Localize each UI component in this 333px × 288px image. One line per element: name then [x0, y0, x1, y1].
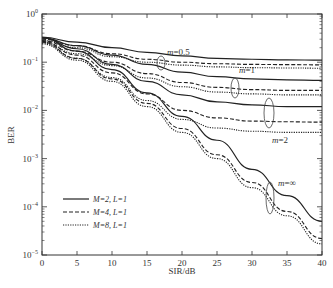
y-tick-label: 10−3	[23, 153, 38, 164]
y-tick-label: 10−2	[23, 104, 38, 115]
group-annotation: m=0.5	[167, 47, 190, 57]
x-tick-label: 0	[40, 258, 45, 268]
x-axis-label: SIR/dB	[168, 266, 195, 276]
x-tick-label: 25	[213, 258, 223, 268]
y-tick-label: 100	[26, 8, 38, 19]
x-tick-label: 15	[143, 258, 153, 268]
x-tick-label: 40	[318, 258, 328, 268]
legend-label: M=2, L=1	[92, 195, 127, 204]
y-tick-label: 10−4	[23, 201, 38, 212]
y-axis-label: BER	[6, 126, 16, 144]
legend-label: M=4, L=1	[92, 208, 127, 217]
group-annotation: m=1	[239, 65, 255, 75]
legend: M=2, L=1M=4, L=1M=8, L=1	[63, 195, 127, 230]
group-ellipse	[264, 98, 274, 128]
x-tick-label: 10	[108, 258, 118, 268]
group-annotation: m=∞	[278, 178, 296, 188]
group-annotation: m=2	[272, 135, 288, 145]
x-tick-label: 5	[75, 258, 80, 268]
legend-label: M=8, L=1	[92, 221, 127, 230]
x-tick-label: 35	[283, 258, 293, 268]
series-line	[42, 38, 322, 221]
y-tick-label: 10−5	[23, 249, 38, 260]
x-tick-label: 30	[248, 258, 258, 268]
y-tick-label: 10−1	[23, 56, 38, 67]
ber-chart: 051015202530354010010−110−210−310−410−5 …	[0, 0, 333, 288]
